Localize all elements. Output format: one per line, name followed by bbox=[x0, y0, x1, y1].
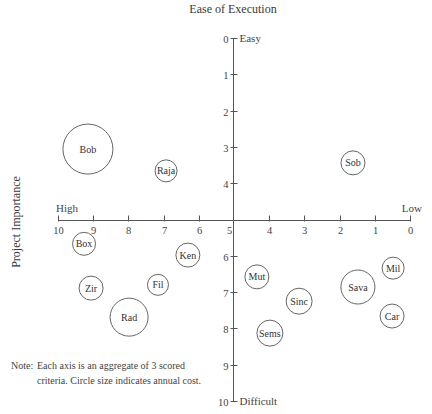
bubble-label: Mil bbox=[386, 263, 401, 274]
y-top-label: Easy bbox=[240, 32, 262, 44]
chart-note: Note: Each axis is an aggregate of 3 sco… bbox=[11, 358, 201, 388]
chart-title: Ease of Execution bbox=[189, 2, 276, 16]
bubble-ken: Ken bbox=[176, 243, 200, 267]
x-tick-label: 7 bbox=[162, 225, 167, 236]
bubble-label: Bob bbox=[80, 144, 97, 155]
x-tick-label: 2 bbox=[338, 225, 343, 236]
bubble-label: Sinc bbox=[290, 296, 308, 307]
y-tick-label: 7 bbox=[223, 288, 228, 299]
x-tick-label: 1 bbox=[373, 225, 378, 236]
bubble-label: Ken bbox=[180, 250, 197, 261]
y-tick-label: 1 bbox=[223, 70, 228, 81]
y-tick-label: 6 bbox=[223, 252, 228, 263]
y-tick-label: 8 bbox=[223, 324, 228, 335]
bubble-mil: Mil bbox=[382, 257, 404, 279]
x-tick-label: 0 bbox=[408, 225, 413, 236]
bubble-car: Car bbox=[380, 304, 404, 328]
bubble-bob: Bob bbox=[63, 124, 113, 174]
y-tick-label: 10 bbox=[218, 397, 229, 408]
bubble-mut: Mut bbox=[245, 265, 269, 289]
bubble-fil: Fil bbox=[147, 274, 168, 295]
y-tick-label: 9 bbox=[223, 361, 228, 372]
bubble-chart: Ease of Execution Project Importance 012… bbox=[0, 0, 432, 414]
bubble-label: Mut bbox=[249, 271, 266, 282]
bubble-sinc: Sinc bbox=[286, 288, 312, 314]
y-axis-title: Project Importance bbox=[9, 176, 23, 268]
y-tick-label: 3 bbox=[223, 143, 228, 154]
x-tick-label: 8 bbox=[126, 225, 131, 236]
axes: 01234678910EasyDifficult109876543210High… bbox=[53, 32, 422, 408]
x-right-label: Low bbox=[402, 202, 422, 214]
bubble-raja: Raja bbox=[155, 160, 177, 182]
note-line-2: criteria. Circle size indicates annual c… bbox=[37, 373, 201, 388]
y-bottom-label: Difficult bbox=[240, 395, 278, 407]
bubble-sava: Sava bbox=[341, 270, 375, 304]
x-tick-label: 10 bbox=[53, 225, 64, 236]
bubble-sems: Sems bbox=[257, 320, 283, 346]
x-left-label: High bbox=[56, 202, 79, 214]
bubble-box: Box bbox=[73, 232, 96, 255]
bubble-label: Sava bbox=[348, 282, 368, 293]
bubble-label: Zir bbox=[85, 283, 98, 294]
bubble-sob: Sob bbox=[341, 151, 365, 175]
bubble-label: Sob bbox=[345, 157, 361, 168]
bubble-label: Sems bbox=[259, 328, 281, 339]
bubble-label: Box bbox=[76, 238, 93, 249]
y-tick-label: 4 bbox=[223, 179, 229, 190]
bubble-label: Fil bbox=[152, 279, 163, 290]
x-tick-label: 4 bbox=[267, 225, 273, 236]
note-lead: Note: bbox=[11, 358, 37, 373]
bubble-label: Car bbox=[385, 311, 400, 322]
bubble-rad: Rad bbox=[110, 298, 148, 336]
x-tick-label: 9 bbox=[91, 225, 96, 236]
bubble-zir: Zir bbox=[79, 276, 103, 300]
x-tick-label: 5 bbox=[227, 225, 232, 236]
y-tick-label: 2 bbox=[223, 107, 228, 118]
x-tick-label: 6 bbox=[197, 225, 202, 236]
y-tick-label: 0 bbox=[223, 34, 228, 45]
bubble-label: Rad bbox=[121, 312, 137, 323]
x-tick-label: 3 bbox=[302, 225, 307, 236]
note-line-1: Each axis is an aggregate of 3 scored bbox=[37, 358, 185, 373]
bubble-label: Raja bbox=[157, 165, 176, 176]
